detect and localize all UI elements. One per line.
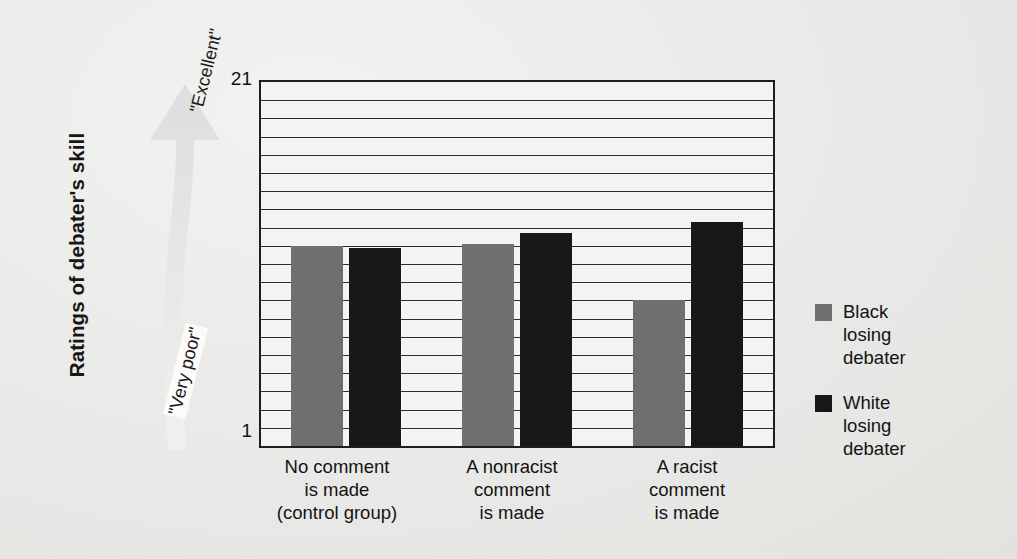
gridline [261, 100, 773, 101]
category-label-line: A racist [582, 455, 792, 478]
gridline [261, 118, 773, 119]
legend-label: Black losing debater [843, 300, 906, 369]
category-label-line: is made [582, 501, 792, 524]
gridline [261, 155, 773, 156]
gridline [261, 137, 773, 138]
bar [349, 248, 401, 446]
bar [462, 244, 514, 446]
legend-label-line: losing [843, 414, 906, 437]
bar [691, 222, 743, 446]
gridline [261, 209, 773, 210]
gridline [261, 173, 773, 174]
bar [291, 246, 343, 446]
category-label-line: comment [582, 478, 792, 501]
gridline [261, 191, 773, 192]
plot-area [259, 80, 775, 448]
legend: Black losing debater White losing debate… [815, 300, 1005, 482]
y-axis-max-label: 21 [212, 68, 252, 90]
bar-chart-figure: Ratings of debater's skill "Excellent" "… [0, 0, 1017, 559]
bar [520, 233, 572, 446]
legend-swatch-black [815, 395, 832, 412]
legend-label-line: losing [843, 323, 906, 346]
legend-swatch-gray [815, 304, 832, 321]
y-axis-min-label: 1 [212, 420, 252, 442]
legend-item: White losing debater [815, 391, 1005, 460]
y-axis-title: Ratings of debater's skill [65, 90, 89, 420]
category-label: A racist comment is made [582, 455, 792, 524]
bar [633, 300, 685, 446]
legend-label-line: Black [843, 300, 906, 323]
legend-label-line: White [843, 391, 906, 414]
legend-item: Black losing debater [815, 300, 1005, 369]
legend-label-line: debater [843, 437, 906, 460]
legend-label-line: debater [843, 346, 906, 369]
legend-label: White losing debater [843, 391, 906, 460]
